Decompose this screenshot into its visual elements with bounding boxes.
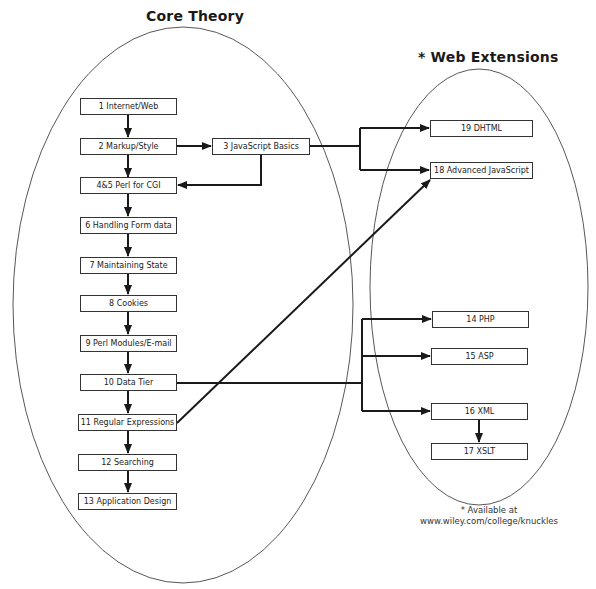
core-theory-title: Core Theory: [146, 8, 244, 24]
chapter-box-3: 3 JavaScript Basics: [212, 138, 310, 155]
footnote: * Available at www.wiley.com/college/knu…: [414, 505, 564, 527]
chapter-box-10: 10 Data Tier: [80, 374, 177, 391]
arrow-11-18: [177, 180, 430, 423]
chapter-box-9: 9 Perl Modules/E-mail: [80, 335, 177, 352]
core-theory-ellipse: [13, 27, 353, 583]
arrow-3-45: [178, 155, 261, 185]
chapter-box-18: 18 Advanced JavaScript: [430, 162, 533, 179]
chapter-box-12: 12 Searching: [78, 454, 177, 471]
chapter-box-15: 15 ASP: [431, 348, 528, 365]
chapter-box-8: 8 Cookies: [80, 295, 177, 312]
chapter-box-16: 16 XML: [431, 403, 528, 420]
chapter-box-2: 2 Markup/Style: [80, 138, 177, 155]
chapter-box-7: 7 Maintaining State: [80, 257, 177, 274]
footnote-url: www.wiley.com/college/knuckles: [414, 516, 564, 527]
chapter-box-6: 6 Handling Form data: [80, 217, 177, 234]
chapter-box-13: 13 Application Design: [78, 493, 177, 510]
web-extensions-title: * Web Extensions: [418, 49, 559, 65]
chapter-box-17: 17 XSLT: [431, 443, 528, 460]
chapter-box-1: 1 Internet/Web: [80, 98, 177, 115]
chapter-box-19: 19 DHTML: [430, 120, 533, 137]
chapter-box-11: 11 Regular Expressions: [78, 414, 177, 431]
chapter-box-14: 14 PHP: [432, 311, 529, 328]
footnote-line-1: * Available at: [414, 505, 564, 516]
chapter-box-4-5: 4&5 Perl for CGI: [80, 177, 177, 194]
